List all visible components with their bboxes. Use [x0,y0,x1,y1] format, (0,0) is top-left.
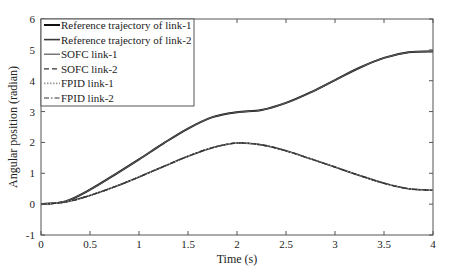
y-tick-label: 2 [30,136,36,148]
legend-item: Reference trajectory of link-2 [44,34,191,46]
y-tick-label: 4 [30,75,36,87]
x-tick-label: 2.5 [279,238,293,250]
legend-label: FPID link-2 [61,92,114,104]
y-tick-label: 1 [30,167,36,179]
series-line-6 [41,143,433,204]
series-line-2 [41,143,433,204]
legend-label: Reference trajectory of link-2 [61,34,191,46]
line-chart: 00.511.522.533.54-10123456 Reference tra… [0,0,450,275]
legend-label: FPID link-1 [61,77,114,89]
legend-label: SOFC link-2 [61,63,118,75]
x-axis-label: Time (s) [217,252,258,266]
series-line-5 [41,143,433,204]
x-tick-label: 4 [430,238,436,250]
y-tick-label: 0 [30,198,36,210]
x-tick-label: 1.5 [181,238,195,250]
x-tick-label: 0 [38,238,44,250]
legend-item: Reference trajectory of link-1 [44,19,191,31]
legend-label: SOFC link-1 [61,48,118,60]
x-tick-label: 3 [332,238,338,250]
x-tick-label: 0.5 [83,238,97,250]
x-tick-label: 2 [234,238,240,250]
x-tick-label: 1 [136,238,142,250]
legend-label: Reference trajectory of link-1 [61,19,191,31]
series-line-4 [41,143,433,204]
y-tick-label: 5 [30,44,36,56]
legend: Reference trajectory of link-1Reference … [41,19,194,106]
y-tick-label: 6 [30,13,36,25]
y-axis-label: Angular position (radian) [6,66,20,188]
y-tick-label: -1 [26,229,35,241]
y-tick-label: 3 [30,106,36,118]
x-tick-label: 3.5 [377,238,391,250]
